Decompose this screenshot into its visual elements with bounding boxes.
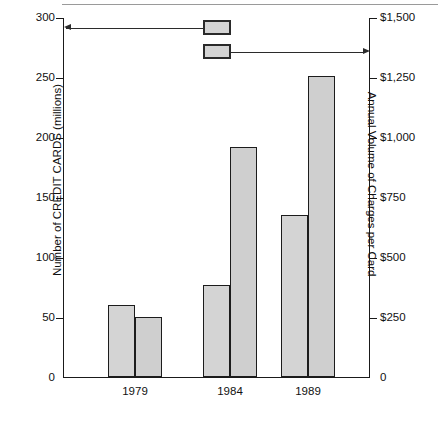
y-right-label-0: 0 [380, 372, 436, 384]
y-left-label-150: 150 [11, 192, 55, 204]
y-right-label-500: $500 [380, 252, 436, 264]
plot-area: 300 250 200 150 100 50 0 $1,500 $1,250 $… [63, 18, 370, 378]
y-right-label-1000: $1,000 [380, 132, 436, 144]
y-right-label-1500: $1,500 [380, 12, 436, 24]
bar-1979-credit-cards [108, 305, 135, 377]
top-rule-divider [62, 4, 438, 5]
y-axis-left-line [63, 18, 64, 378]
y-right-label-1250: $1,250 [380, 72, 436, 84]
bar-1984-annual-volume [230, 147, 257, 377]
bar-1979-annual-volume [135, 317, 162, 377]
x-axis-label-1989: 1989 [268, 385, 348, 397]
y-left-label-100: 100 [11, 252, 55, 264]
credit-cards-bar-chart: 300 250 200 150 100 50 0 $1,500 $1,250 $… [0, 0, 442, 429]
y-left-label-200: 200 [11, 132, 55, 144]
y-right-label-250: $250 [380, 312, 436, 324]
x-axis-label-1984: 1984 [190, 385, 270, 397]
y-axis-left-title: Number of CREDIT CARDS (millions) [51, 0, 63, 360]
bar-1989-credit-cards [281, 215, 308, 377]
x-axis-label-1979: 1979 [95, 385, 175, 397]
y-right-label-750: $750 [380, 192, 436, 204]
y-left-label-300: 300 [11, 12, 55, 24]
y-axis-right-title: Annual Volume of Charges per Card [366, 4, 378, 364]
bar-1989-annual-volume [308, 76, 335, 377]
bar-1984-credit-cards [203, 285, 230, 377]
y-left-label-0: 0 [11, 372, 55, 384]
y-left-label-50: 50 [11, 312, 55, 324]
y-left-label-250: 250 [11, 72, 55, 84]
